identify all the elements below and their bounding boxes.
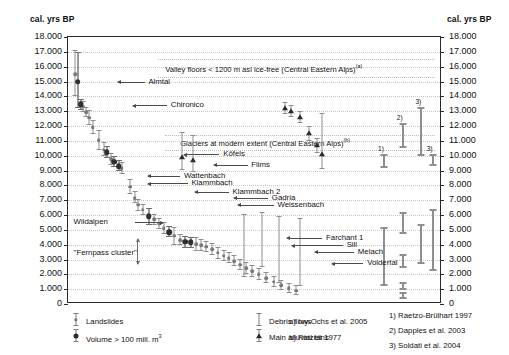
legend-reference: 3) Soldati et al. 2004 [389,341,461,350]
error-bar-cap-top [166,226,172,227]
error-bar-cap-top [244,262,249,263]
reference-bar-stem [432,209,434,271]
data-point-volume-100-mill-m3 [166,229,172,235]
error-bar-cap-bottom [215,258,220,259]
data-point-landslides [244,267,248,271]
tick-mark [440,274,444,275]
y-tick-label-right: 7.000 [449,194,497,204]
error-bar-cap-bottom [172,244,177,245]
y-tick-label-left: 5.000 [14,224,62,234]
data-point-landslides [97,138,101,142]
data-point-landslides [178,238,182,242]
y-tick-label-left: 2.000 [14,268,62,278]
data-point-main-alluvial-fans [297,114,303,119]
data-point-landslides [257,273,261,277]
legend: LandslidesVolume > 100 mill. m3Debris fl… [0,306,509,355]
error-bar-cap-bottom [178,244,183,245]
band-boundary-glaciers-modern [165,135,434,136]
error-bar-cap-bottom [232,265,237,266]
error-bar-cap-top [96,130,101,131]
error-bar-cap-top [75,52,81,53]
gridline [68,111,440,112]
reference-bar-cap-bottom [418,154,425,156]
error-bar-cap-bottom [152,224,157,225]
chart-root: cal. yrs BP cal. yrs BP 18.00017.00016.0… [0,0,509,355]
y-tick-label-left: 12.000 [14,120,62,130]
error-bar-cap-bottom [226,262,231,263]
error-bar-cap-bottom [166,236,172,237]
y-tick-label-left: 4.000 [14,239,62,249]
annotation-label: Sill [347,240,357,249]
legend-reference: 2) Dapples et al. 2003 [389,326,465,335]
reference-bar-cap-top [418,224,425,226]
y-tick-label-left: 8.000 [14,179,62,189]
error-bar-cap-top [132,191,137,192]
tick-mark [440,141,444,142]
reference-bar-cap-top [418,107,425,109]
data-point-landslides [216,251,220,255]
error-bar-cap-bottom [140,214,145,215]
data-point-landslides [91,126,95,130]
error-bar-cap-bottom [256,279,261,280]
annotation-label: Melach [358,247,383,256]
tick-mark [440,200,444,201]
data-point-main-alluvial-fans [319,151,325,156]
error-bar-cap-bottom [128,193,133,194]
error-bar-cap-top [232,255,237,256]
error-bar-cap-top [250,265,255,266]
error-bar-cap-top [172,227,177,228]
reference-bar-cap-top [399,254,406,256]
error-bar-cap-bottom [271,286,276,287]
annotation-label: Chironico [171,100,204,109]
y-tick-label-right: 5.000 [449,224,497,234]
reference-bar-stem [420,224,422,264]
tick-mark [64,304,68,305]
error-bar-cap-bottom [238,269,243,270]
reference-bar-cap-top [429,209,436,211]
plot-area: Valley floors < 1200 m asl ice-free (Cen… [67,36,441,303]
data-point-landslides [194,242,198,246]
tick-mark [440,289,444,290]
errorbar-plain-icon [255,313,263,326]
band-boundary-glaciers-modern [165,150,434,151]
error-bar-cap-bottom [204,251,209,252]
data-point-landslides [272,280,276,284]
reference-marker-label: 2) [397,114,403,121]
tick-mark [440,52,444,53]
error-bar-stem [322,113,323,169]
tick-mark [440,215,444,216]
reference-bar-cap-top [429,154,436,156]
data-point-landslides [199,244,203,248]
error-bar-cap-bottom [104,157,110,158]
reference-bar-cap-bottom [399,297,406,299]
tick-mark [440,37,444,38]
error-bar-cap-top [128,179,133,180]
y-tick-label-right: 16.000 [449,61,497,71]
data-point-main-alluvial-fans [288,108,294,113]
data-point-landslides [264,276,268,280]
error-bar-cap-bottom [119,173,124,174]
legend-label-superscript: 3 [159,333,162,339]
legend-label-volume: Volume > 100 mill. m3 [86,333,162,344]
error-bar-stem [243,214,244,278]
y-tick-label-right: 13.000 [449,105,497,115]
error-bar-cap-top [152,214,157,215]
data-point-landslides [222,254,226,258]
error-bar-cap-top [282,102,287,103]
y-tick-label-right: 4.000 [449,239,497,249]
data-point-landslides [238,263,242,267]
gridline [68,171,440,172]
annotation-arrow [315,252,354,253]
error-bar-cap-top [83,107,88,108]
error-bar-cap-top [86,110,91,111]
error-bar-cap-bottom [241,276,246,277]
data-point-main-alluvial-fans [314,143,320,148]
reference-bar-cap-bottom [399,146,406,148]
y-tick-label-left: 15.000 [14,76,62,86]
reference-bar-cap-bottom [399,288,406,290]
reference-bar-cap-top [399,123,406,125]
error-bar-cap-top [193,237,198,238]
annotation-arrow [292,245,342,246]
y-tick-label-left: 9.000 [14,165,62,175]
reference-bar-stem [420,107,422,156]
